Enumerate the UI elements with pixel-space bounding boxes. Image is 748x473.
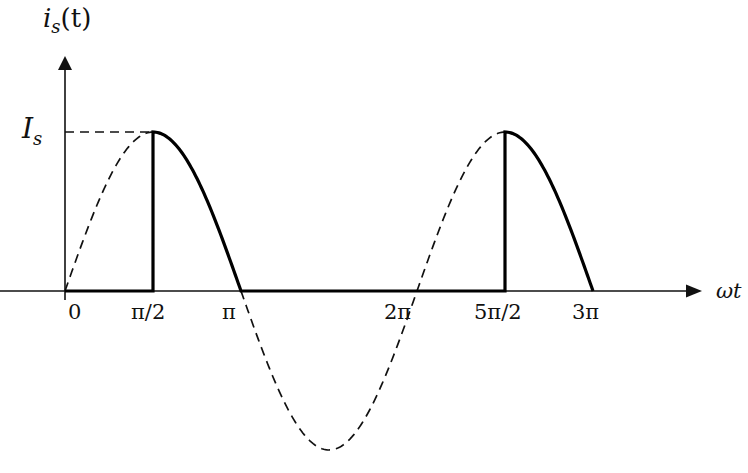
x-tick-pi: π (222, 300, 236, 324)
x-tick-5pi-over-2: 5π/2 (474, 300, 522, 324)
x-tick-pi-over-2: π/2 (131, 300, 165, 324)
amplitude-label: Is (22, 112, 42, 149)
x-axis-label: ωt (716, 279, 742, 303)
x-tick-3pi: 3π (572, 300, 599, 324)
y-axis-arrow-icon (58, 56, 72, 70)
source-current-waveform (65, 132, 593, 291)
waveform-plot (0, 0, 748, 473)
y-axis-label: is(t) (43, 3, 91, 37)
x-axis-arrow-icon (686, 285, 702, 298)
x-tick-2pi: 2π (384, 300, 411, 324)
waveform-figure: is(t) Is ωt 0 π/2 π 2π 5π/2 3π (0, 0, 748, 473)
x-tick-0: 0 (68, 300, 81, 324)
